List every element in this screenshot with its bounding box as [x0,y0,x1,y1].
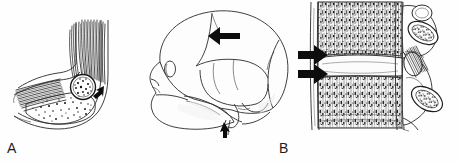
panel-label-a: A [7,141,17,155]
ossicle [71,75,96,100]
superior-articular-process [412,5,432,21]
vertebral-body-inferior [318,76,402,128]
panel-c-spine: C [296,0,460,164]
elbow-illustration [0,0,140,164]
vertebral-body-superior [318,2,402,58]
panel-a-elbow: A [0,0,140,164]
panel-b-skull: B [138,0,303,164]
deep-tendon-mass [70,24,79,78]
panel-label-b: B [279,141,289,155]
spine-illustration [296,0,460,164]
occipital-border [242,112,270,124]
figure-container: A [0,0,460,164]
